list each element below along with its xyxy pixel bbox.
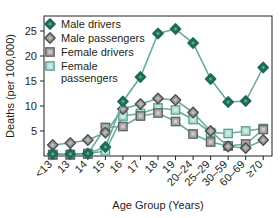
legend-label-female-passengers: passengers (61, 72, 118, 84)
data-point-highlight (139, 114, 142, 117)
x-tick-label: 18 (142, 158, 159, 175)
x-tick-label: 14 (72, 158, 89, 175)
data-point-highlight (209, 140, 212, 143)
chart-container: 510152025Deaths (per 100,000)<1313141516… (0, 0, 280, 218)
legend: Male driversMale passengersFemale driver… (45, 18, 145, 84)
data-point-highlight (121, 114, 124, 117)
line-chart: 510152025Deaths (per 100,000)<1313141516… (0, 0, 280, 218)
y-tick-label: 10 (25, 100, 37, 112)
x-tick-label: 13 (55, 158, 72, 175)
y-tick-label: 25 (25, 25, 37, 37)
data-point-highlight (48, 50, 51, 53)
data-point-highlight (48, 64, 51, 67)
data-point-highlight (156, 111, 159, 114)
legend-label-female-drivers: Female drivers (61, 46, 134, 58)
x-tick-label: 16 (107, 158, 124, 175)
legend-label-female-passengers: Female (61, 60, 98, 72)
data-point-highlight (121, 125, 124, 128)
series-male-drivers (48, 24, 269, 159)
data-point-highlight (262, 128, 265, 131)
legend-label-male-drivers: Male drivers (61, 18, 121, 30)
y-tick-label: 15 (25, 75, 37, 87)
data-point-highlight (191, 118, 194, 121)
data-point-highlight (174, 108, 177, 111)
y-tick-label: 20 (25, 50, 37, 62)
x-tick-label: 17 (125, 158, 142, 175)
series-female-drivers (49, 109, 268, 159)
data-point-highlight (244, 129, 247, 132)
data-point-highlight (191, 132, 194, 135)
y-tick-label: 5 (31, 125, 37, 137)
legend-label-male-passengers: Male passengers (61, 32, 145, 44)
data-point-highlight (227, 132, 230, 135)
y-axis-title: Deaths (per 100,000) (4, 34, 16, 138)
data-point-highlight (174, 120, 177, 123)
x-tick-label: ≥70 (243, 158, 264, 179)
x-tick-label: <13 (32, 158, 54, 180)
x-axis-title: Age Group (Years) (112, 199, 203, 211)
x-tick-label: 15 (90, 158, 107, 175)
